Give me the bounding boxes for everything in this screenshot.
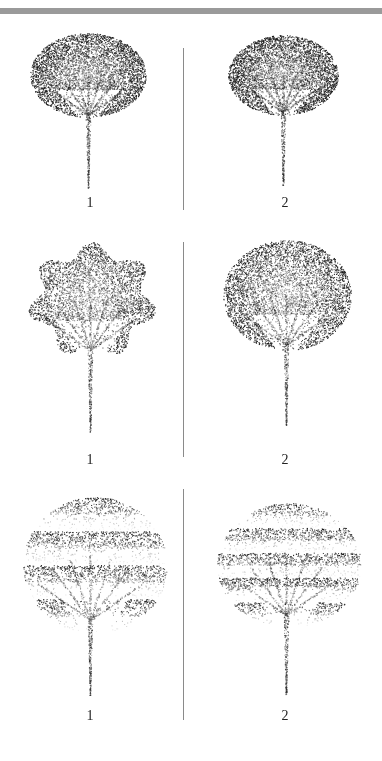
tree-panel-3-2: 2 (191, 0, 371, 761)
tree-label: 1 (80, 708, 100, 724)
tree-panel-3-1: 1 (0, 0, 180, 761)
tree-label: 2 (275, 708, 295, 724)
fractal-tree-image (191, 0, 376, 761)
fractal-tree-image (0, 0, 185, 761)
